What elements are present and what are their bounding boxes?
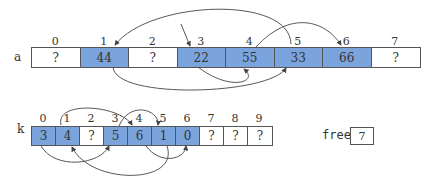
arrow-k4-k6: [146, 146, 186, 158]
pointer-arrows: [0, 0, 429, 184]
arrow-head-pointer: [181, 24, 190, 46]
arrow-a5-a1: [115, 9, 291, 45]
arrow-a4-a6: [256, 23, 341, 47]
arrow-a3-a4: [198, 67, 248, 82]
arrow-k1-k4: [61, 108, 132, 125]
arrow-k0-k3: [41, 146, 109, 162]
arrow-a1-a5: [113, 67, 286, 90]
